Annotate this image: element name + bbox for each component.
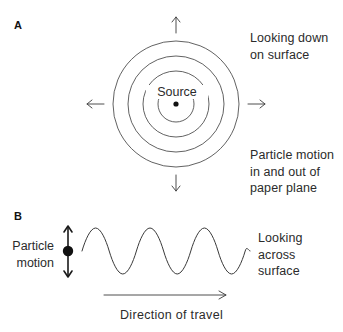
direction-of-travel-arrow-icon: [104, 291, 226, 299]
arrow-up-icon: [172, 17, 180, 33]
source-label: Source: [146, 85, 208, 99]
sine-wave: [82, 228, 250, 274]
particle-dot: [63, 246, 73, 256]
arrow-left-icon: [87, 100, 104, 108]
arrow-right-icon: [248, 100, 265, 108]
wave-propagation-figure: A B: [0, 0, 343, 332]
direction-of-travel-label: Direction of travel: [0, 308, 343, 322]
source-dot: [173, 101, 178, 106]
particle-motion-label: Particle motion: [0, 238, 54, 271]
particle-motion-in-out-of-plane-text: Particle motion in and out of paper plan…: [250, 147, 334, 197]
looking-down-on-surface-text: Looking down on surface: [250, 30, 328, 63]
looking-across-surface-text: Looking across surface: [258, 230, 303, 280]
arrow-down-icon: [172, 175, 180, 191]
